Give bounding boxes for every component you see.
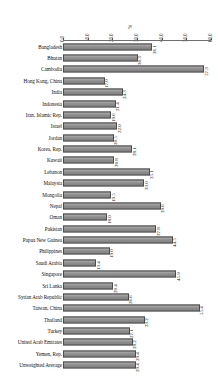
category-label: Lebanon	[44, 169, 62, 175]
bar-row: Nepal39.6	[0, 200, 218, 211]
category-label: Iran, Islamic Rep.	[26, 112, 62, 118]
category-label: Cambodia	[41, 66, 62, 72]
value-label: 29.4	[135, 363, 140, 372]
category-label: Yemen, Rep.	[36, 351, 62, 357]
plot-area: Bangladesh36.1Bhutan30.3Cambodia57.3Hong…	[0, 41, 218, 371]
bar	[63, 225, 156, 232]
category-label: Bhutan	[47, 55, 62, 61]
category-label: Philippines	[39, 248, 62, 254]
bar	[63, 305, 200, 312]
category-label: Jordan	[48, 135, 62, 141]
category-label: Thailand	[44, 317, 62, 323]
category-label: Syrian Arab Republic	[18, 294, 62, 300]
bar	[63, 259, 96, 266]
bar	[63, 237, 173, 244]
bar-row: Thailand33.2	[0, 314, 218, 325]
bar	[63, 168, 150, 175]
bar-row: Kuwait20.8	[0, 155, 218, 166]
bar-row: Taiwan, China55.4	[0, 303, 218, 314]
category-label: Pakistan	[45, 226, 62, 232]
bar	[63, 55, 138, 62]
category-label: United Arab Emirates	[18, 339, 62, 345]
bar-chart: 0.010.020.030.040.050.060.0% Bangladesh3…	[0, 0, 218, 378]
x-tick-mark	[211, 38, 212, 40]
bar-row: Korea, Rep.28.1	[0, 143, 218, 154]
bar	[63, 100, 116, 107]
bar-row: Papua New Guinea44.5	[0, 234, 218, 245]
category-label: Taiwan, China	[32, 305, 62, 311]
bar-row: Yemen, Rep.29.4	[0, 348, 218, 359]
bar	[63, 328, 130, 335]
bar-row: Unweighted Average29.4	[0, 360, 218, 371]
category-label: Saudi Arabia	[36, 260, 62, 266]
bar	[63, 271, 176, 278]
bar-row: Syrian Arab Republic26.6	[0, 291, 218, 302]
bar	[63, 339, 133, 346]
bar	[63, 77, 105, 84]
bar-row: Iran, Islamic Rep.19.6	[0, 109, 218, 120]
bar	[63, 362, 136, 369]
bar-row: Hong Kong, China17.0	[0, 75, 218, 86]
category-label: Unweighted Average	[19, 362, 62, 368]
category-label: India	[52, 89, 62, 95]
category-label: Mongolia	[42, 192, 62, 198]
category-label: Malaysia	[43, 180, 62, 186]
bar-row: Indonesia21.4	[0, 98, 218, 109]
x-axis: 0.010.020.030.040.050.060.0%	[0, 0, 218, 40]
bar-row: Bangladesh36.1	[0, 41, 218, 52]
bar	[63, 146, 132, 153]
category-label: Singapore	[41, 271, 62, 277]
bar-row: India24.3	[0, 87, 218, 98]
bar	[63, 282, 113, 289]
category-label: Turkey	[48, 328, 63, 334]
bar-row: Oman18.0	[0, 212, 218, 223]
category-label: Indonesia	[42, 101, 62, 107]
category-label: Nepal	[50, 203, 62, 209]
bar-row: Bhutan30.3	[0, 52, 218, 63]
bar-row: Malaysia33.0	[0, 178, 218, 189]
bar	[63, 111, 111, 118]
category-label: Kuwait	[47, 157, 62, 163]
category-label: Hong Kong, China	[23, 78, 62, 84]
bar	[63, 123, 117, 130]
bar	[63, 180, 144, 187]
bar	[63, 191, 111, 198]
category-label: Papua New Guinea	[23, 237, 62, 243]
bar	[63, 43, 152, 50]
category-label: Israel	[51, 123, 62, 129]
bar	[63, 214, 107, 221]
bar	[63, 293, 129, 300]
bar-row: Israel22.0	[0, 121, 218, 132]
bar-row: Lebanon35.1	[0, 166, 218, 177]
bar	[63, 350, 136, 357]
bar	[63, 157, 114, 164]
x-axis-title: %	[127, 25, 133, 29]
category-label: Oman	[50, 214, 62, 220]
bar-row: Singapore45.9	[0, 269, 218, 280]
bar	[63, 89, 123, 96]
bar	[63, 316, 145, 323]
bar-row: Cambodia57.3	[0, 64, 218, 75]
bar-row: Philippines19.0	[0, 246, 218, 257]
bar	[63, 248, 110, 255]
bar	[63, 134, 114, 141]
bar-row: United Arab Emirates28.2	[0, 337, 218, 348]
bar	[63, 202, 161, 209]
category-label: Bangladesh	[38, 44, 62, 50]
category-label: Korea, Rep.	[38, 146, 62, 152]
bar-row: Sri Lanka20.4	[0, 280, 218, 291]
bar-row: Pakistan37.8	[0, 223, 218, 234]
bar-row: Mongolia19.5	[0, 189, 218, 200]
bar	[63, 66, 204, 73]
bar-row: Saudi Arabia13.4	[0, 257, 218, 268]
bar-row: Turkey27.1	[0, 325, 218, 336]
bar-row: Jordan20.5	[0, 132, 218, 143]
category-label: Sri Lanka	[42, 283, 62, 289]
